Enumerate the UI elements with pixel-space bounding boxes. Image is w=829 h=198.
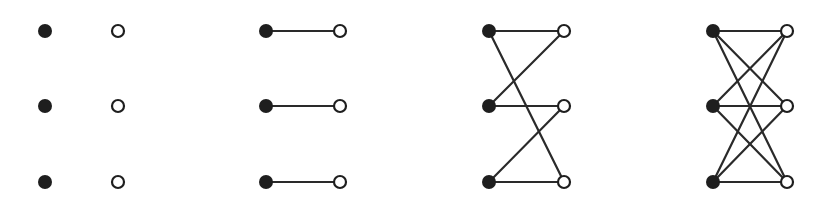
graph-two-regular-bipartite xyxy=(482,24,570,189)
filled-node xyxy=(259,99,273,113)
hollow-node xyxy=(558,100,570,112)
filled-node xyxy=(38,99,52,113)
filled-node xyxy=(482,24,496,38)
hollow-node xyxy=(558,176,570,188)
hollow-node xyxy=(558,25,570,37)
bipartite-graphs-diagram xyxy=(0,0,829,198)
edge xyxy=(489,106,564,182)
filled-node xyxy=(482,175,496,189)
graph-perfect-matching xyxy=(259,24,346,189)
hollow-node xyxy=(781,100,793,112)
hollow-node xyxy=(334,176,346,188)
filled-node xyxy=(706,24,720,38)
filled-node xyxy=(482,99,496,113)
hollow-node xyxy=(112,100,124,112)
filled-node xyxy=(259,24,273,38)
filled-node xyxy=(706,175,720,189)
filled-node xyxy=(706,99,720,113)
hollow-node xyxy=(781,176,793,188)
graph-empty-bipartite xyxy=(38,24,124,189)
edge xyxy=(489,31,564,106)
hollow-node xyxy=(334,25,346,37)
filled-node xyxy=(38,24,52,38)
filled-node xyxy=(259,175,273,189)
hollow-node xyxy=(112,176,124,188)
graph-complete-bipartite-k33 xyxy=(706,24,793,189)
hollow-node xyxy=(781,25,793,37)
hollow-node xyxy=(112,25,124,37)
filled-node xyxy=(38,175,52,189)
hollow-node xyxy=(334,100,346,112)
